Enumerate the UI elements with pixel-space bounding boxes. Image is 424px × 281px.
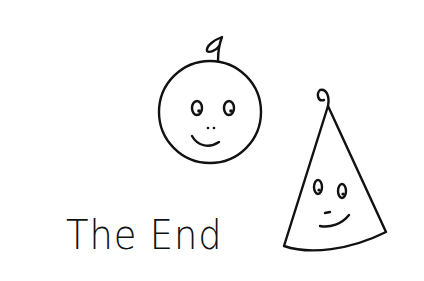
left-eye-icon [192,101,202,115]
right-eye-icon [224,101,234,115]
cone-outline [284,106,386,250]
round-face-outline [159,61,261,163]
nose-dot [207,127,210,130]
illustration-canvas: The End [0,0,424,281]
curl-loop-icon [318,90,329,106]
stem-loop-icon [207,37,222,61]
round-face-figure [159,37,261,163]
the-end-caption: The End [66,212,223,258]
right-pupil [229,109,233,113]
left-pupil [197,109,201,113]
nose-dot [213,127,216,130]
smile-icon [320,215,349,227]
nose-dash [325,212,330,213]
smile-icon [192,136,219,146]
right-pupil [341,192,344,195]
cone-face-figure [284,90,386,251]
left-eye-icon [314,180,322,194]
left-pupil [317,188,320,191]
right-eye-icon [338,184,346,198]
